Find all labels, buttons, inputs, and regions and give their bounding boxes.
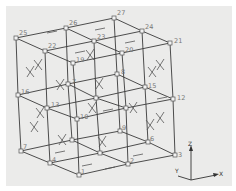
axis-z-label: Z bbox=[188, 140, 192, 147]
mesh-edge bbox=[18, 95, 21, 151]
mesh-node bbox=[92, 39, 96, 43]
mesh-edge bbox=[45, 51, 73, 63]
mesh-node bbox=[16, 93, 20, 97]
mesh-edge bbox=[142, 31, 145, 87]
element-dash-mark bbox=[55, 151, 65, 153]
mesh-edge bbox=[114, 18, 117, 74]
axis-triad-icon: Z X Y bbox=[174, 140, 223, 180]
node-label: 27 bbox=[117, 9, 125, 17]
mesh-node bbox=[112, 16, 116, 20]
node-label: 8 bbox=[121, 68, 125, 76]
element-cross-mark bbox=[95, 78, 103, 89]
mesh-edge bbox=[96, 87, 145, 98]
mesh-edge bbox=[73, 63, 77, 119]
mesh-edge bbox=[66, 28, 94, 41]
mesh-edge bbox=[21, 151, 50, 163]
mesh-edge bbox=[68, 84, 96, 98]
mesh-node bbox=[64, 26, 68, 30]
element-cross-mark bbox=[36, 107, 44, 118]
node-label: 19 bbox=[76, 56, 84, 64]
mesh-edge bbox=[96, 98, 100, 153]
node-label: 13 bbox=[51, 101, 59, 109]
mesh-edge bbox=[128, 155, 175, 164]
element-cross-mark bbox=[156, 112, 164, 123]
mesh-edge bbox=[68, 84, 72, 140]
node-label: 10 bbox=[80, 113, 88, 121]
mesh-node bbox=[120, 51, 124, 55]
mesh-edge bbox=[21, 140, 72, 151]
mesh-edge bbox=[120, 131, 148, 142]
element-dash-mark bbox=[133, 154, 143, 156]
node-label: 25 bbox=[19, 29, 27, 37]
mesh-diagram: 1234679101213151678192021222324252627 Z … bbox=[0, 0, 236, 191]
mesh-node bbox=[98, 151, 102, 155]
element-dash-mark bbox=[103, 109, 113, 111]
node-label: 1 bbox=[81, 168, 85, 176]
mesh-node bbox=[14, 36, 18, 40]
node-label: 24 bbox=[145, 23, 153, 31]
mesh-node bbox=[173, 153, 177, 157]
node-label: 4 bbox=[52, 156, 56, 164]
mesh-node bbox=[94, 96, 98, 100]
node-label: 21 bbox=[174, 37, 182, 45]
node-label: 12 bbox=[177, 94, 185, 102]
mesh-edge bbox=[94, 41, 122, 53]
element-cross-mark bbox=[156, 59, 164, 70]
mesh-edge bbox=[94, 41, 96, 98]
element-cross-mark bbox=[34, 59, 42, 70]
node-label: 2 bbox=[130, 157, 134, 165]
element-cross-mark bbox=[88, 102, 96, 113]
element-dash-mark bbox=[75, 51, 85, 53]
mesh-node bbox=[171, 97, 175, 101]
mesh-node bbox=[140, 29, 144, 33]
element-cross-mark bbox=[86, 49, 94, 60]
mesh-edge bbox=[16, 38, 45, 51]
node-label: 16 bbox=[21, 88, 29, 96]
mesh-edge bbox=[77, 119, 79, 175]
node-label: 9 bbox=[122, 124, 126, 132]
node-label: 7 bbox=[72, 78, 76, 86]
mesh-edge bbox=[72, 140, 100, 153]
mesh-edge bbox=[100, 153, 128, 164]
element-dash-mark bbox=[82, 164, 92, 166]
element-cross-mark bbox=[30, 121, 38, 132]
element-dash-mark bbox=[105, 167, 115, 169]
mesh-edge bbox=[16, 38, 18, 95]
mesh-edge bbox=[66, 28, 68, 84]
mesh-node bbox=[43, 49, 47, 53]
mesh-edge bbox=[122, 53, 126, 108]
node-label: 7 bbox=[23, 143, 27, 151]
element-dash-mark bbox=[125, 41, 135, 43]
axis-y-label: Y bbox=[174, 167, 179, 174]
mesh-edge bbox=[50, 153, 100, 163]
mesh-edge bbox=[142, 31, 170, 43]
mesh-node bbox=[75, 117, 79, 121]
mesh-edge bbox=[126, 108, 128, 164]
element-cross-mark bbox=[56, 79, 64, 90]
mesh-node bbox=[168, 41, 172, 45]
mesh-edge bbox=[117, 74, 120, 131]
mesh-edge bbox=[18, 95, 47, 108]
mesh-edge bbox=[45, 51, 47, 108]
mesh-node bbox=[70, 138, 74, 142]
mesh-node bbox=[124, 106, 128, 110]
mesh-node bbox=[66, 82, 70, 86]
mesh-edge bbox=[50, 163, 79, 175]
mesh-edge bbox=[148, 142, 175, 155]
mesh-node bbox=[115, 72, 119, 76]
axis-x-label: X bbox=[219, 170, 223, 177]
mesh-edge bbox=[114, 18, 142, 31]
mesh-edge bbox=[100, 142, 148, 153]
mesh-edge bbox=[79, 164, 128, 175]
mesh-edge bbox=[145, 87, 148, 142]
element-cross-mark bbox=[26, 66, 34, 77]
mesh-edge bbox=[170, 43, 173, 99]
mesh-node bbox=[143, 85, 147, 89]
element-cross-mark bbox=[58, 134, 66, 145]
mesh-edge bbox=[72, 131, 120, 140]
node-label: 15 bbox=[148, 82, 156, 90]
element-dash-mark bbox=[95, 28, 105, 30]
mesh-edge bbox=[96, 98, 126, 108]
node-label: 22 bbox=[48, 42, 56, 50]
node-label: 3 bbox=[178, 151, 182, 159]
